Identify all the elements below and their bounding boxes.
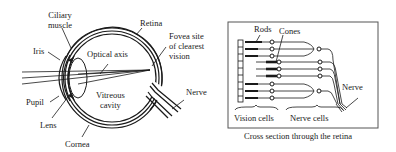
label-pupil: Pupil xyxy=(26,97,44,107)
label-line: cavity xyxy=(96,100,125,110)
label-vision-cells: Vision cells xyxy=(234,113,274,123)
label-line: of clearest xyxy=(169,41,204,51)
label-cornea: Cornea xyxy=(65,139,90,149)
label-rods: Rods xyxy=(254,24,271,34)
cell-column xyxy=(238,40,243,102)
retina-caption: Cross section through the retina xyxy=(244,131,352,141)
label-fovea: Fovea site of clearest vision xyxy=(169,31,204,61)
label-nerve-retina: Nerve xyxy=(342,82,363,92)
label-line: muscle xyxy=(48,20,72,30)
label-ciliary-muscle: Ciliary muscle xyxy=(48,10,72,30)
label-line: Fovea site xyxy=(169,31,204,41)
label-nerve-eye: Nerve xyxy=(186,87,207,97)
label-vitreous-cavity: Vitreous cavity xyxy=(96,90,125,110)
label-lens: Lens xyxy=(40,120,57,130)
label-iris: Iris xyxy=(33,46,44,56)
label-retina: Retina xyxy=(140,18,162,28)
label-line: vision xyxy=(169,51,204,61)
label-line: Ciliary xyxy=(48,10,72,20)
label-cones: Cones xyxy=(279,26,300,36)
label-optical-axis: Optical axis xyxy=(87,49,128,59)
label-nerve-cells: Nerve cells xyxy=(290,113,328,123)
label-line: Vitreous xyxy=(96,90,125,100)
